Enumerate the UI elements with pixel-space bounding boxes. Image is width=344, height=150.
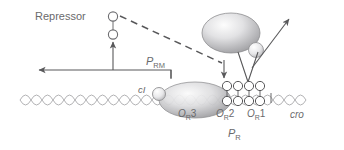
operator-or3-label: OR3 — [178, 109, 196, 121]
lambda-switch-diagram: Repressor PRM PR cI OR3 OR2 OR1 cro — [0, 0, 344, 150]
diagram-canvas — [0, 0, 344, 150]
cro-gene-label: cro — [290, 110, 304, 120]
operator-or2-label: OR2 — [216, 109, 234, 121]
pr-promoter-label: PR — [228, 128, 241, 142]
ci-gene-label: cI — [138, 85, 145, 95]
rna-polymerase — [202, 13, 264, 58]
operator-or1-label: OR1 — [247, 109, 265, 121]
pr-promoter-label-sub: R — [235, 133, 240, 142]
free-repressor-dimer — [108, 12, 117, 39]
operator-or2-num: 2 — [229, 108, 235, 119]
operator-or3-num: 3 — [191, 108, 197, 119]
operator-or1-num: 1 — [260, 108, 266, 119]
prm-transcript-arrow — [39, 70, 171, 78]
repressor-label: Repressor — [35, 11, 86, 22]
operator-or3-o: O — [178, 108, 186, 119]
operator-or2-o: O — [216, 108, 224, 119]
operator-or1-o: O — [247, 108, 255, 119]
prm-promoter-label: PRM — [146, 56, 165, 70]
prm-promoter-label-sub: RM — [153, 61, 165, 70]
